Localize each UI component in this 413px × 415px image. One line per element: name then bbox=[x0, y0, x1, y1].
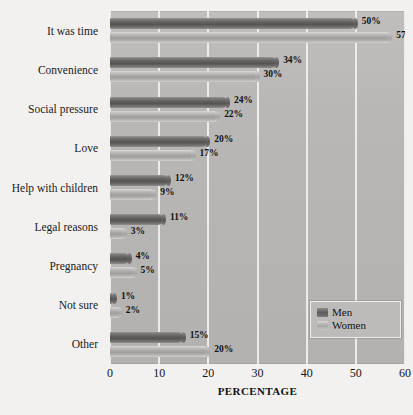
bar-row: 3% bbox=[110, 228, 405, 239]
chart-legend: Men Women bbox=[310, 301, 401, 338]
bar-value-label: 15% bbox=[190, 330, 209, 340]
bar-value-label: 20% bbox=[214, 134, 233, 144]
bar-men-legal-reasons bbox=[110, 214, 164, 225]
bar-men-pregnancy bbox=[110, 253, 130, 264]
x-tick-label-50: 50 bbox=[350, 366, 362, 381]
bar-end-cap bbox=[215, 111, 220, 122]
bar-end-cap bbox=[205, 136, 210, 147]
bar-value-label: 4% bbox=[136, 251, 150, 261]
bar-value-label: 2% bbox=[126, 305, 140, 315]
bar-row: 30% bbox=[110, 71, 405, 82]
bar-end-cap bbox=[274, 57, 279, 68]
bar-row: 5% bbox=[110, 267, 405, 278]
bar-value-label: 12% bbox=[175, 173, 194, 183]
bar-end-cap bbox=[255, 71, 260, 82]
x-axis-ticks: 0102030405060 bbox=[110, 366, 405, 382]
bar-row: 12% bbox=[110, 175, 405, 186]
x-tick-label-30: 30 bbox=[252, 366, 264, 381]
category-label-other: Other bbox=[0, 338, 98, 350]
x-tick-label-10: 10 bbox=[153, 366, 165, 381]
bar-value-label: 3% bbox=[131, 226, 145, 236]
bar-row: 9% bbox=[110, 189, 405, 200]
bar-row: 57% bbox=[110, 32, 405, 43]
bar-men-it-was-time bbox=[110, 18, 356, 29]
bar-women-it-was-time bbox=[110, 32, 390, 43]
bar-value-label: 34% bbox=[283, 55, 302, 65]
bar-end-cap bbox=[112, 293, 117, 304]
bar-row: 20% bbox=[110, 136, 405, 147]
bar-women-other bbox=[110, 346, 208, 357]
bar-end-cap bbox=[161, 214, 166, 225]
legend-item-women: Women bbox=[317, 319, 394, 332]
bar-value-label: 24% bbox=[234, 95, 253, 105]
bar-end-cap bbox=[181, 332, 186, 343]
bar-men-convenience bbox=[110, 57, 277, 68]
legend-label-women: Women bbox=[332, 319, 366, 332]
category-label-social-pressure: Social pressure bbox=[0, 103, 98, 115]
bar-value-label: 20% bbox=[214, 344, 233, 354]
bar-chart: It was timeConvenienceSocial pressureLov… bbox=[0, 0, 413, 415]
x-tick-label-20: 20 bbox=[202, 366, 214, 381]
bar-women-not-sure bbox=[110, 307, 120, 318]
x-tick-label-0: 0 bbox=[107, 366, 113, 381]
bar-value-label: 9% bbox=[160, 187, 174, 197]
bar-value-label: 17% bbox=[200, 148, 219, 158]
legend-swatch-women-icon bbox=[317, 321, 328, 330]
category-axis-labels: It was timeConvenienceSocial pressureLov… bbox=[0, 12, 104, 364]
legend-swatch-men-icon bbox=[317, 308, 328, 317]
bar-row: 50% bbox=[110, 18, 405, 29]
legend-item-men: Men bbox=[317, 306, 394, 319]
bar-end-cap bbox=[387, 32, 392, 43]
bar-men-love bbox=[110, 136, 208, 147]
bar-value-label: 50% bbox=[362, 16, 381, 26]
category-label-it-was-time: It was time bbox=[0, 25, 98, 37]
bar-end-cap bbox=[151, 189, 156, 200]
bar-men-social-pressure bbox=[110, 97, 228, 108]
bar-women-love bbox=[110, 150, 194, 161]
bar-women-social-pressure bbox=[110, 111, 218, 122]
x-tick-label-40: 40 bbox=[301, 366, 313, 381]
category-label-legal-reasons: Legal reasons bbox=[0, 221, 98, 233]
bar-women-convenience bbox=[110, 71, 258, 82]
bar-value-label: 5% bbox=[141, 265, 155, 275]
bar-value-label: 22% bbox=[224, 109, 243, 119]
bar-end-cap bbox=[122, 228, 127, 239]
bar-value-label: 30% bbox=[264, 69, 283, 79]
bar-row: 4% bbox=[110, 253, 405, 264]
x-tick-label-60: 60 bbox=[399, 366, 411, 381]
bar-row: 17% bbox=[110, 150, 405, 161]
bar-row: 24% bbox=[110, 97, 405, 108]
bar-row: 22% bbox=[110, 111, 405, 122]
bar-end-cap bbox=[127, 253, 132, 264]
bar-end-cap bbox=[166, 175, 171, 186]
bar-row: 11% bbox=[110, 214, 405, 225]
bar-men-help-with-children bbox=[110, 175, 169, 186]
category-label-love: Love bbox=[0, 142, 98, 154]
bar-row: 34% bbox=[110, 57, 405, 68]
bar-women-legal-reasons bbox=[110, 228, 125, 239]
bar-men-not-sure bbox=[110, 293, 115, 304]
bar-end-cap bbox=[225, 97, 230, 108]
bar-end-cap bbox=[191, 150, 196, 161]
category-label-not-sure: Not sure bbox=[0, 299, 98, 311]
bar-value-label: 57% bbox=[396, 30, 405, 40]
bar-end-cap bbox=[117, 307, 122, 318]
bar-end-cap bbox=[132, 267, 137, 278]
bar-value-label: 1% bbox=[121, 291, 135, 301]
category-label-convenience: Convenience bbox=[0, 64, 98, 76]
bar-row: 20% bbox=[110, 346, 405, 357]
legend-label-men: Men bbox=[332, 306, 352, 319]
category-label-pregnancy: Pregnancy bbox=[0, 260, 98, 272]
bar-women-help-with-children bbox=[110, 189, 154, 200]
bar-women-pregnancy bbox=[110, 267, 135, 278]
x-axis-title: PERCENTAGE bbox=[110, 385, 405, 397]
bar-end-cap bbox=[205, 346, 210, 357]
bar-men-other bbox=[110, 332, 184, 343]
bar-value-label: 11% bbox=[170, 212, 188, 222]
plot-area: 50%57%34%30%24%22%20%17%12%9%11%3%4%5%1%… bbox=[110, 11, 405, 364]
bar-end-cap bbox=[353, 18, 358, 29]
category-label-help-with-children: Help with children bbox=[0, 182, 98, 194]
